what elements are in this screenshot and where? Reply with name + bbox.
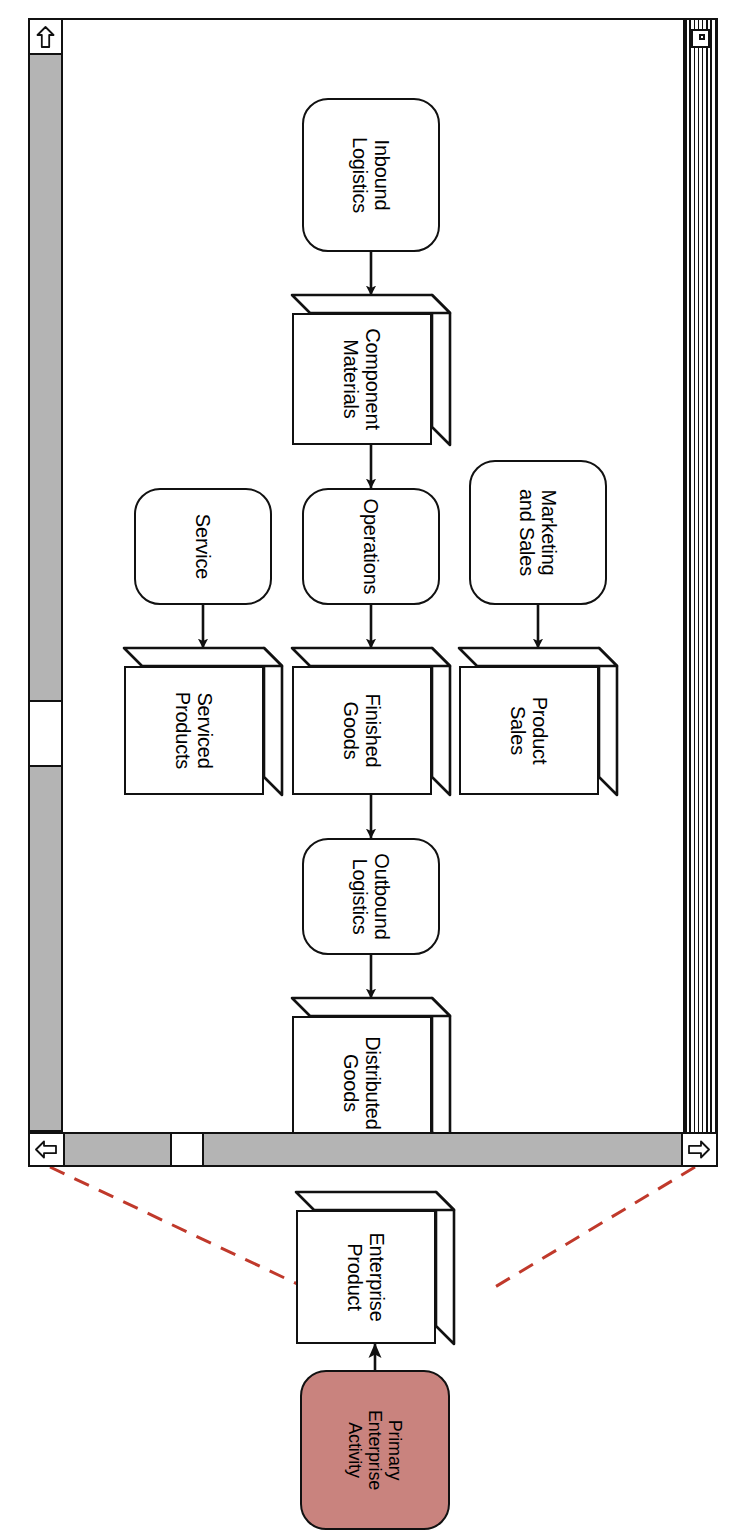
callout-line-top — [490, 1167, 695, 1290]
legend-detail-group: Enterprise Product Primary Enterprise Ac… — [252, 1270, 502, 1470]
vertical-scrollbar[interactable] — [30, 1132, 716, 1165]
node-product-sales[interactable]: Product Sales — [459, 648, 617, 795]
horizontal-scroll-thumb[interactable] — [30, 700, 61, 767]
scroll-down-button[interactable] — [30, 1134, 63, 1165]
node-component-materials[interactable]: Component Materials — [292, 295, 450, 445]
node-distributed-goods[interactable]: Distributed Goods — [292, 998, 450, 1132]
node-label: Outbound Logistics — [349, 849, 394, 943]
horizontal-scrollbar[interactable] — [30, 20, 63, 1165]
node-marketing-and-sales[interactable]: Marketing and Sales — [469, 460, 607, 605]
node-label: Component Materials — [340, 324, 385, 434]
arrow-down-icon — [36, 1140, 58, 1159]
node-service[interactable]: Service — [134, 488, 272, 605]
legend-node-primary-enterprise-activity[interactable]: Primary Enterprise Activity — [300, 1370, 450, 1530]
arrow-up-icon — [689, 1140, 711, 1159]
node-label: Inbound Logistics — [349, 133, 394, 217]
node-label: Serviced Products — [172, 688, 217, 773]
node-label: Service — [192, 510, 214, 583]
diagram-canvas: Inbound Logistics Component Materials Op… — [63, 20, 683, 1132]
scroll-up-button[interactable] — [683, 1134, 716, 1165]
window-titlebar[interactable] — [683, 20, 716, 1165]
node-label: Distributed Goods — [340, 1032, 385, 1132]
window-close-box-icon[interactable] — [691, 29, 710, 48]
node-label: Operations — [360, 495, 382, 599]
legend-node-label: Enterprise Product — [344, 1228, 389, 1325]
scroll-left-button[interactable] — [30, 20, 61, 53]
diagram-window[interactable]: Inbound Logistics Component Materials Op… — [28, 18, 718, 1167]
node-inbound-logistics[interactable]: Inbound Logistics — [302, 98, 440, 252]
node-outbound-logistics[interactable]: Outbound Logistics — [302, 838, 440, 955]
node-finished-goods[interactable]: Finished Goods — [292, 648, 450, 795]
node-label: Product Sales — [507, 693, 552, 769]
vertical-scroll-thumb[interactable] — [170, 1134, 204, 1165]
node-serviced-products[interactable]: Serviced Products — [124, 648, 282, 795]
node-label: Finished Goods — [340, 690, 385, 772]
node-operations[interactable]: Operations — [302, 488, 440, 605]
vertical-scroll-track[interactable] — [63, 1134, 683, 1165]
legend-node-label: Primary Enterprise Activity — [345, 1406, 405, 1494]
legend-node-enterprise-product[interactable]: Enterprise Product — [296, 1192, 454, 1344]
horizontal-scroll-track[interactable] — [30, 53, 61, 1132]
node-label: Marketing and Sales — [516, 485, 561, 580]
arrow-left-icon — [36, 26, 55, 48]
